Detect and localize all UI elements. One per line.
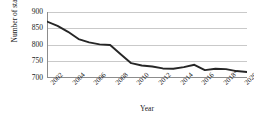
y-axis-tick-labels: 900 850 800 750 700: [17, 0, 43, 122]
chart-svg: [47, 12, 247, 78]
y-tick-750: 750: [19, 57, 43, 65]
line-chart: Number of staff 900 850 800 750 700: [0, 0, 254, 122]
plot-area: [47, 12, 247, 78]
data-line-number-of-staff: [47, 22, 247, 72]
x-axis-title: Year: [47, 104, 247, 113]
y-tick-700: 700: [19, 74, 43, 82]
y-tick-850: 850: [19, 24, 43, 32]
y-tick-800: 800: [19, 41, 43, 49]
y-tick-900: 900: [19, 8, 43, 16]
